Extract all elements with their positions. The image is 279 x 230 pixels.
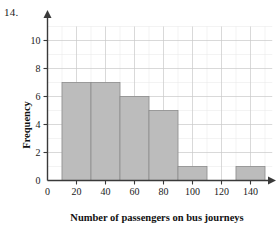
y-axis-tick-labels: 0246810 xyxy=(31,35,41,186)
y-tick-label: 0 xyxy=(36,175,41,186)
x-tick-label: 140 xyxy=(243,186,258,197)
y-tick-label: 4 xyxy=(36,119,41,130)
x-tick-label: 0 xyxy=(45,186,50,197)
y-tick-label: 10 xyxy=(31,35,41,46)
y-axis-arrow-icon xyxy=(44,10,52,18)
y-axis-title: Frequency xyxy=(21,100,32,148)
x-tick-label: 80 xyxy=(159,186,169,197)
y-tick-label: 8 xyxy=(36,63,41,74)
x-tick-label: 40 xyxy=(101,186,111,197)
x-axis-title: Number of passengers on bus journeys xyxy=(70,212,243,223)
x-tick-label: 100 xyxy=(185,186,200,197)
histogram-bar xyxy=(120,97,149,181)
x-axis-tick-labels: 020406080100120140 xyxy=(45,186,258,197)
x-tick-label: 20 xyxy=(72,186,82,197)
histogram-bar xyxy=(62,83,91,181)
histogram-bar xyxy=(149,111,178,181)
histogram-figure: 14. 020406080100120140 0246810 Number of… xyxy=(0,0,279,230)
histogram-bar xyxy=(236,167,265,181)
x-tick-label: 120 xyxy=(214,186,229,197)
histogram-bar xyxy=(178,167,207,181)
x-tick-label: 60 xyxy=(130,186,140,197)
x-axis-arrow-icon xyxy=(268,177,276,185)
y-tick-label: 2 xyxy=(36,147,41,158)
y-tick-label: 6 xyxy=(36,91,41,102)
chart-canvas: 020406080100120140 0246810 Number of pas… xyxy=(0,0,279,230)
histogram-bar xyxy=(91,83,120,181)
